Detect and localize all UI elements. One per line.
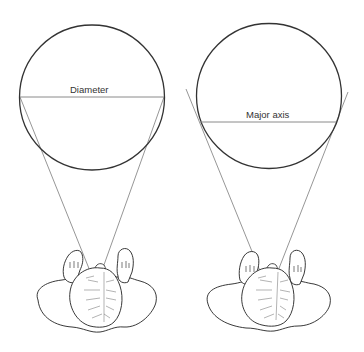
left-observer-figure [37,249,156,333]
left-sightline-left [20,97,92,276]
left-panel: Diameter [20,25,165,332]
left-hand-right [117,249,133,283]
right-circle [197,24,342,169]
left-sightline-right [100,97,164,276]
left-head [70,268,122,327]
right-observer-figure [207,250,330,331]
major-axis-label: Major axis [246,109,290,120]
right-hand-right [289,250,305,284]
right-panel: Major axis [186,24,348,332]
diagram-canvas: Diameter Major axis [0,0,364,352]
diameter-label: Diameter [70,84,109,95]
right-head [242,268,294,326]
